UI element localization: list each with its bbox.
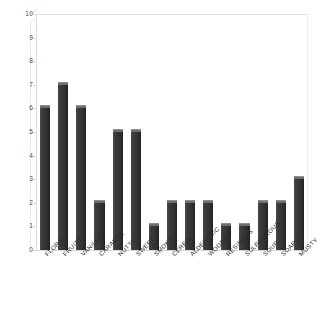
bar-top-highlight: [185, 200, 195, 201]
bar-top-highlight: [149, 223, 159, 224]
bar-top-highlight: [131, 129, 141, 130]
bar-top-highlight: [94, 200, 104, 201]
bar-top-cap: [203, 201, 213, 203]
bar-top-highlight: [40, 105, 50, 106]
bar-top-highlight: [203, 200, 213, 201]
bar-top-cap: [294, 177, 304, 179]
bar-top-highlight: [221, 223, 231, 224]
bar-top-highlight: [167, 200, 177, 201]
bar-top-cap: [239, 224, 249, 226]
bar-top-highlight: [276, 200, 286, 201]
bar-top-highlight: [58, 82, 68, 83]
bar-top-cap: [276, 201, 286, 203]
bar-top-cap: [185, 201, 195, 203]
bar-top-cap: [149, 224, 159, 226]
bar-fruity: [58, 85, 68, 250]
bar-sweet: [131, 132, 141, 250]
bar-top-cap: [113, 130, 123, 132]
bar-top-highlight: [239, 223, 249, 224]
bar-top-highlight: [113, 129, 123, 130]
bar-top-cap: [167, 201, 177, 203]
bar-top-cap: [131, 130, 141, 132]
bar-top-cap: [94, 201, 104, 203]
bar-top-highlight: [294, 176, 304, 177]
bar-top-highlight: [258, 200, 268, 201]
bar-top-cap: [258, 201, 268, 203]
bar-top-highlight: [76, 105, 86, 106]
bar-floral: [40, 108, 50, 250]
bar-top-cap: [76, 106, 86, 108]
bar-chart: 012345678910 FLORALFRUITYVANILLACARAMELN…: [0, 0, 322, 322]
bar-top-cap: [40, 106, 50, 108]
bar-top-cap: [221, 224, 231, 226]
bar-vanilla: [76, 108, 86, 250]
bar-top-cap: [58, 83, 68, 85]
bar-series: [0, 0, 322, 322]
